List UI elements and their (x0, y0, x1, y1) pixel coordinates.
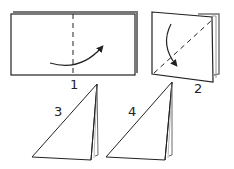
origami-diagram: 1 2 3 4 (0, 0, 234, 169)
step-1-rectangle (11, 12, 137, 75)
step-2-label: 2 (194, 81, 202, 96)
step-4-label: 4 (128, 104, 136, 119)
step-2-folded-square (152, 12, 219, 82)
step-1-label: 1 (70, 77, 78, 92)
step-3-triangle (32, 84, 98, 160)
step-3-label: 3 (54, 104, 62, 119)
step-4-triangle (106, 82, 172, 160)
